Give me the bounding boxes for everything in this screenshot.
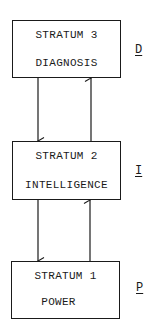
stratum-3-name: DIAGNOSIS (13, 57, 120, 69)
stratum-2-tag: I (135, 164, 142, 178)
stratum-1-title: STRATUM 1 (12, 270, 119, 282)
stratum-2-title: STRATUM 2 (13, 150, 120, 162)
stratum-1-name: POWER (0, 296, 119, 308)
stratum-3-box: STRATUM 3 DIAGNOSIS (12, 20, 121, 78)
stratum-3-title: STRATUM 3 (13, 29, 120, 41)
stratum-1-box: STRATUM 1 POWER (11, 261, 120, 319)
stratum-1-tag: P (136, 281, 143, 295)
stratum-2-box: STRATUM 2 INTELLIGENCE (12, 141, 121, 200)
stratum-3-tag: D (135, 43, 142, 57)
stratum-2-name: INTELLIGENCE (13, 179, 120, 191)
